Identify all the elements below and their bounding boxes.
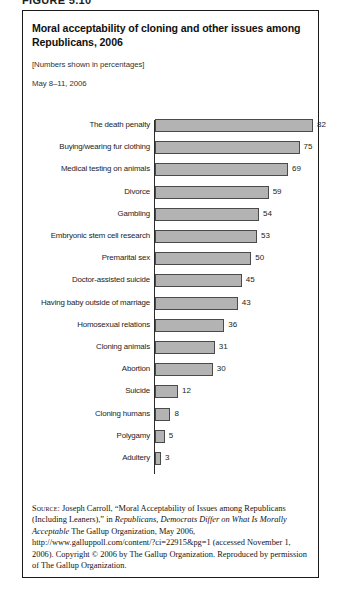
- bar: [155, 252, 251, 265]
- bar-value-label: 12: [182, 384, 191, 397]
- bar-label: Divorce: [23, 185, 150, 198]
- bar: [155, 208, 259, 221]
- bar-value-label: 75: [304, 140, 313, 153]
- bar-row: Cloning animals31: [23, 341, 317, 354]
- bar: [155, 452, 161, 465]
- bar-value-label: 5: [169, 429, 173, 442]
- bar-row: Having baby outside of marriage43: [23, 297, 317, 310]
- bar-row: Suicide12: [23, 385, 317, 398]
- bar-value-label: 3: [165, 451, 169, 464]
- source-text-2: The Gallup Organization, May 2006, http:…: [32, 527, 307, 570]
- bar-value-label: 53: [261, 229, 270, 242]
- bar-row: Premarital sex50: [23, 252, 317, 265]
- bar-label: Medical testing on animals: [23, 162, 150, 175]
- chart-date-range: May 8–11, 2006: [32, 79, 309, 89]
- figure-frame: Moral acceptability of cloning and other…: [22, 10, 319, 578]
- bar-label: Homosexual relations: [23, 318, 150, 331]
- bar-row: Cloning humans8: [23, 408, 317, 421]
- bar-row: Medical testing on animals69: [23, 163, 317, 176]
- bar-row: Adultery3: [23, 452, 317, 465]
- figure-inner: Moral acceptability of cloning and other…: [23, 11, 318, 577]
- bar-row: Divorce59: [23, 186, 317, 199]
- figure-running-head: FIGURE 5.10: [22, 0, 91, 6]
- bar-chart: The death penalty82Buying/wearing fur cl…: [23, 118, 317, 488]
- bar-label: Buying/wearing fur clothing: [23, 140, 150, 153]
- bar-value-label: 50: [255, 251, 264, 264]
- bar-row: Doctor-assisted suicide45: [23, 274, 317, 287]
- bar-label: The death penalty: [23, 118, 150, 131]
- bar-label: Cloning humans: [23, 407, 150, 420]
- bar-row: Gambling54: [23, 208, 317, 221]
- bar: [155, 363, 213, 376]
- bar: [155, 385, 178, 398]
- bar-label: Polygamy: [23, 429, 150, 442]
- bar-label: Suicide: [23, 384, 150, 397]
- bar-row: The death penalty82: [23, 119, 317, 132]
- bar: [155, 430, 165, 443]
- bar-label: Cloning animals: [23, 340, 150, 353]
- bar-row: Embryonic stem cell research53: [23, 230, 317, 243]
- bar-value-label: 8: [174, 407, 178, 420]
- bar: [155, 186, 269, 199]
- bar-label: Abortion: [23, 362, 150, 375]
- bar-label: Gambling: [23, 207, 150, 220]
- bar: [155, 141, 300, 154]
- bar-value-label: 59: [273, 185, 282, 198]
- page-title: Moral acceptability of cloning and other…: [32, 22, 309, 49]
- bar-value-label: 31: [219, 340, 228, 353]
- bar: [155, 297, 238, 310]
- bar: [155, 341, 215, 354]
- bar-label: Doctor-assisted suicide: [23, 273, 150, 286]
- bar-value-label: 45: [246, 273, 255, 286]
- bar-value-label: 36: [228, 318, 237, 331]
- bar-label: Premarital sex: [23, 251, 150, 264]
- bar-value-label: 30: [217, 362, 226, 375]
- source-citation: Source: Joseph Carroll, “Moral Acceptabi…: [32, 503, 309, 571]
- bar: [155, 119, 313, 132]
- bar-row: Polygamy5: [23, 430, 317, 443]
- bar-label: Adultery: [23, 451, 150, 464]
- bar-label: Having baby outside of marriage: [23, 296, 150, 309]
- bar: [155, 274, 242, 287]
- bar-row: Buying/wearing fur clothing75: [23, 141, 317, 154]
- bar-value-label: 54: [263, 207, 272, 220]
- chart-subtitle: [Numbers shown in percentages]: [32, 60, 309, 70]
- bar-value-label: 43: [242, 296, 251, 309]
- bar: [155, 163, 288, 176]
- bar-label: Embryonic stem cell research: [23, 229, 150, 242]
- bar: [155, 230, 257, 243]
- bar-row: Homosexual relations36: [23, 319, 317, 332]
- bar-row: Abortion30: [23, 363, 317, 376]
- bar-value-label: 82: [317, 118, 326, 131]
- bar: [155, 408, 170, 421]
- bar: [155, 319, 224, 332]
- source-label: Source:: [32, 504, 60, 513]
- bar-value-label: 69: [292, 162, 301, 175]
